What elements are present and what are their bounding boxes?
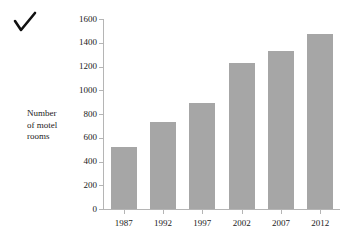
y-axis-tick — [99, 162, 103, 163]
y-axis-tick — [99, 185, 103, 186]
y-axis-tick — [99, 114, 103, 115]
x-axis-tick — [281, 210, 282, 214]
x-axis-tick — [242, 210, 243, 214]
y-axis-tick — [99, 90, 103, 91]
y-axis-tick — [99, 67, 103, 68]
x-axis-tick — [163, 210, 164, 214]
y-axis-tick-label: 1200 — [57, 62, 97, 71]
y-axis-tick — [99, 19, 103, 20]
bar-2002 — [229, 63, 255, 209]
y-axis-tick — [99, 209, 103, 210]
y-axis-tick-label: 600 — [57, 133, 97, 142]
x-axis-tick — [320, 210, 321, 214]
x-axis-tick-label: 2007 — [261, 218, 301, 228]
y-axis-tick-label: 1600 — [57, 15, 97, 24]
y-axis-tick-label: 1400 — [57, 38, 97, 47]
x-axis-tick-label: 1987 — [104, 218, 144, 228]
bar-1992 — [150, 122, 176, 209]
bar-2007 — [268, 51, 294, 209]
x-axis-tick-label: 2002 — [222, 218, 262, 228]
bar-1987 — [111, 147, 137, 209]
x-axis-tick-label: 1997 — [182, 218, 222, 228]
y-axis-tick-label: 400 — [57, 157, 97, 166]
x-axis-line — [103, 209, 340, 210]
y-axis-tick-label: 0 — [57, 205, 97, 214]
bar-chart-figure: Number of motel rooms 020040060080010001… — [0, 0, 359, 247]
y-axis-tick — [99, 138, 103, 139]
x-axis-tick — [124, 210, 125, 214]
check-mark-annotation — [12, 10, 38, 36]
x-axis-tick — [202, 210, 203, 214]
y-axis-tick-label: 800 — [57, 110, 97, 119]
plot-area — [104, 19, 340, 209]
y-axis-tick-labels: 02004006008001000120014001600 — [53, 0, 97, 247]
x-axis-tick-label: 2012 — [300, 218, 340, 228]
bar-2012 — [307, 34, 333, 209]
y-axis-tick-label: 200 — [57, 181, 97, 190]
y-axis-tick-label: 1000 — [57, 86, 97, 95]
y-axis-tick — [99, 43, 103, 44]
bar-1997 — [189, 103, 215, 209]
x-axis-tick-label: 1992 — [143, 218, 183, 228]
